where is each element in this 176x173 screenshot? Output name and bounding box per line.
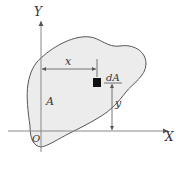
x-axis-label: X [164,130,174,144]
y-distance-label: y [114,97,122,110]
area-region [27,37,146,147]
area-label: A [45,95,54,108]
y-axis-label: Y [34,5,43,19]
x-distance-label: x [65,55,72,68]
origin-label: O [32,133,40,144]
element-dA-square [93,78,101,87]
element-label: dA [106,72,120,83]
area-moment-diagram: Y X O A dA x y [0,0,176,173]
